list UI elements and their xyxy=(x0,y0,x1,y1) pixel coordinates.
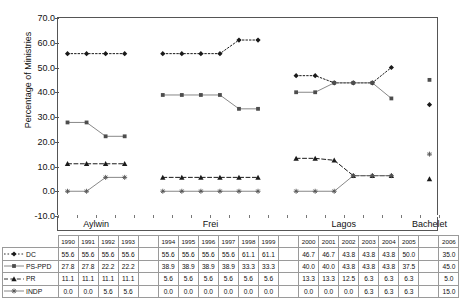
data-point xyxy=(198,189,203,194)
table-cell: 0.0 xyxy=(58,285,78,297)
table-cell: 0.0 xyxy=(258,285,278,297)
table-cell: 22.2 xyxy=(98,260,118,272)
president-label-aylwin: Aylwin xyxy=(83,217,109,231)
legend-label: PR xyxy=(26,275,35,282)
y-axis-tick-label: 50.0 xyxy=(37,63,55,73)
table-cell: 43.8 xyxy=(359,248,379,260)
table-cell: 6.3 xyxy=(399,273,419,285)
table-cell: 55.6 xyxy=(98,248,118,260)
series-line xyxy=(296,158,391,175)
legend-key-wrap: PS-PPD xyxy=(4,262,58,270)
data-point xyxy=(103,51,108,56)
legend-key-ps-ppd: PS-PPD xyxy=(3,260,59,272)
series-line xyxy=(68,122,125,136)
table-cell: 5.6 xyxy=(158,273,178,285)
table-cell: 5.6 xyxy=(218,273,238,285)
table-cell: 46.7 xyxy=(319,248,339,260)
table-cell: 22.2 xyxy=(118,260,138,272)
table-year-header: 2000 xyxy=(299,236,319,248)
data-point xyxy=(294,189,299,194)
data-point xyxy=(313,189,318,194)
data-point xyxy=(65,189,70,194)
table-year-header: 1999 xyxy=(258,236,278,248)
table-year-header: 2004 xyxy=(379,236,399,248)
table-cell: 5.6 xyxy=(98,285,118,297)
table-gap-cell xyxy=(419,273,439,285)
series-indp xyxy=(65,152,432,194)
plot-area: 70.060.050.040.030.020.010.00.0-10.0 xyxy=(57,17,438,215)
table-gap-cell xyxy=(419,260,439,272)
y-axis-tick-label: 0.0 xyxy=(42,186,55,196)
data-point xyxy=(180,93,184,97)
table-cell: 43.8 xyxy=(359,260,379,272)
series-ps-ppd xyxy=(66,78,432,138)
data-point xyxy=(332,81,336,85)
period-cell xyxy=(304,217,323,230)
table-cell: 12.5 xyxy=(339,273,359,285)
period-cell xyxy=(248,217,267,230)
table-cell: 0.0 xyxy=(198,285,218,297)
table-cell: 33.3 xyxy=(258,260,278,272)
table-year-header: 1997 xyxy=(218,236,238,248)
data-point xyxy=(370,81,374,85)
table-cell: 38.9 xyxy=(178,260,198,272)
legend-key-pr: PR xyxy=(3,273,59,285)
data-point xyxy=(313,90,317,94)
president-band: AylwinFreiLagosBachelet xyxy=(57,217,438,231)
data-point xyxy=(427,152,432,157)
table-cell: 27.8 xyxy=(78,260,98,272)
legend-marker-pr xyxy=(4,275,24,283)
table-cell: 45.0 xyxy=(439,260,459,272)
table-gap-cell xyxy=(419,248,439,260)
table-year-header: 1996 xyxy=(198,236,218,248)
table-cell: 0.0 xyxy=(299,285,319,297)
period-gap xyxy=(134,217,153,230)
legend-key-wrap: INDP xyxy=(4,287,58,295)
table-year-header: 2001 xyxy=(319,236,339,248)
series-dc xyxy=(65,37,432,107)
period-cell xyxy=(115,217,134,230)
data-point xyxy=(218,93,222,97)
table-cell: 6.3 xyxy=(399,285,419,297)
series-line xyxy=(296,176,391,192)
data-point xyxy=(389,97,393,101)
table-cell: 5.6 xyxy=(258,273,278,285)
data-point xyxy=(294,73,299,78)
data-point xyxy=(217,189,222,194)
table-cell: 11.1 xyxy=(98,273,118,285)
table-year-header: 2003 xyxy=(359,236,379,248)
table-cell: 11.1 xyxy=(58,273,78,285)
data-point xyxy=(313,73,318,78)
table-row: PR11.111.111.111.15.65.65.65.65.65.613.3… xyxy=(3,273,459,285)
table-cell: 6.3 xyxy=(359,273,379,285)
data-point xyxy=(84,51,89,56)
table-gap-cell xyxy=(419,236,439,248)
data-point xyxy=(256,107,260,111)
data-point xyxy=(427,102,432,107)
table-cell: 13.3 xyxy=(299,273,319,285)
period-cell xyxy=(172,217,191,230)
series-line xyxy=(296,68,391,83)
table-row: PS-PPD27.827.822.222.238.938.938.938.933… xyxy=(3,260,459,272)
data-point xyxy=(122,51,127,56)
table-cell: 50.0 xyxy=(399,248,419,260)
y-axis-tick-label: 70.0 xyxy=(37,13,55,23)
data-point xyxy=(198,51,203,56)
table-cell: 6.3 xyxy=(379,273,399,285)
period-cell xyxy=(58,217,77,230)
legend-label: PS-PPD xyxy=(26,263,51,270)
series-line xyxy=(296,83,391,99)
period-cell xyxy=(229,217,248,230)
data-point xyxy=(294,90,298,94)
president-label-lagos: Lagos xyxy=(331,217,356,231)
table-cell: 55.6 xyxy=(178,248,198,260)
data-point xyxy=(255,37,260,42)
table-cell: 5.6 xyxy=(118,285,138,297)
table-gap-cell xyxy=(419,285,439,297)
table-year-header: 1994 xyxy=(158,236,178,248)
data-point xyxy=(236,189,241,194)
table-year-header: 1993 xyxy=(118,236,138,248)
table-cell: 27.8 xyxy=(58,260,78,272)
table-cell: 0.0 xyxy=(78,285,98,297)
